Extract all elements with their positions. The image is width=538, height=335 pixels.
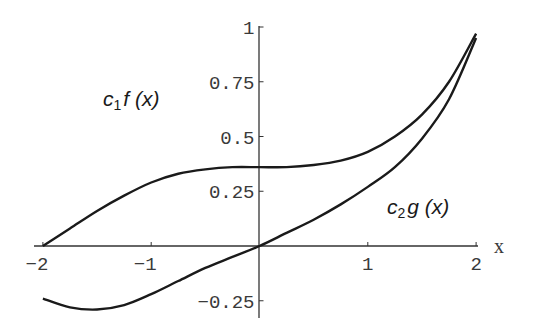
curve-label-f: c1f (x): [103, 87, 159, 113]
x-tick-label: −2: [25, 254, 48, 276]
x-tick-label: 1: [362, 254, 373, 276]
chart: −2−112 x −0.250.250.50.751 c1f (x) c2g (…: [0, 0, 538, 335]
curve-label-g: c2g (x): [387, 195, 449, 221]
y-tick-label: 1: [243, 18, 254, 40]
y-ticks: −0.250.250.50.751: [197, 18, 263, 314]
y-tick-label: 0.5: [220, 128, 254, 150]
y-tick-label: 0.25: [209, 182, 255, 204]
y-tick-label: −0.25: [197, 292, 254, 314]
x-axis-label: x: [494, 235, 504, 257]
y-tick-label: 0.75: [209, 73, 255, 95]
x-ticks: −2−112: [25, 242, 481, 276]
x-tick-label: −1: [134, 254, 157, 276]
x-tick-label: 2: [470, 254, 481, 276]
x-axis: −2−112 x: [25, 235, 504, 276]
